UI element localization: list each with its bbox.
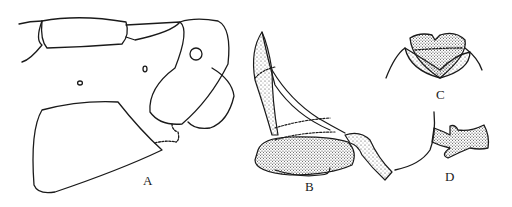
- panel-label-c: C: [436, 88, 445, 101]
- panel-label-d: D: [445, 170, 454, 183]
- figure: A B C D: [0, 0, 512, 207]
- panel-c-drawing: [386, 33, 482, 78]
- figure-drawing: [0, 0, 512, 207]
- panel-label-a: A: [143, 174, 152, 187]
- panel-b-drawing: [254, 32, 392, 180]
- panel-a-drawing: [19, 18, 234, 193]
- panel-d-drawing: [395, 112, 489, 170]
- panel-label-b: B: [305, 180, 314, 193]
